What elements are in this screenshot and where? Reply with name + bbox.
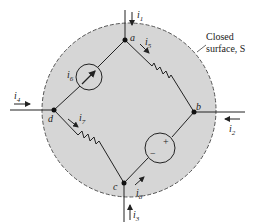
current-source-i6 xyxy=(76,64,102,90)
node-d xyxy=(52,108,57,113)
voltage-source: + − xyxy=(145,133,175,163)
node-label-c: c xyxy=(113,181,118,192)
surface-label-line2: surface, S xyxy=(206,43,245,54)
svg-text:i3: i3 xyxy=(133,209,140,223)
svg-text:i1: i1 xyxy=(137,9,143,23)
svg-text:i2: i2 xyxy=(229,123,236,137)
node-label-a: a xyxy=(130,32,135,43)
plus-sign: + xyxy=(163,136,169,147)
minus-sign: − xyxy=(150,148,156,159)
node-label-b: b xyxy=(196,101,201,112)
node-a xyxy=(123,38,128,43)
svg-text:i4: i4 xyxy=(14,90,21,104)
circuit-diagram: + − a b c d i1 i5 i6 i4 i2 i7 i8 i3 Clo xyxy=(0,0,258,224)
surface-label-line1: Closed xyxy=(206,31,234,42)
node-c xyxy=(122,181,127,186)
closed-surface xyxy=(42,23,216,197)
surface-pointer xyxy=(197,45,206,52)
